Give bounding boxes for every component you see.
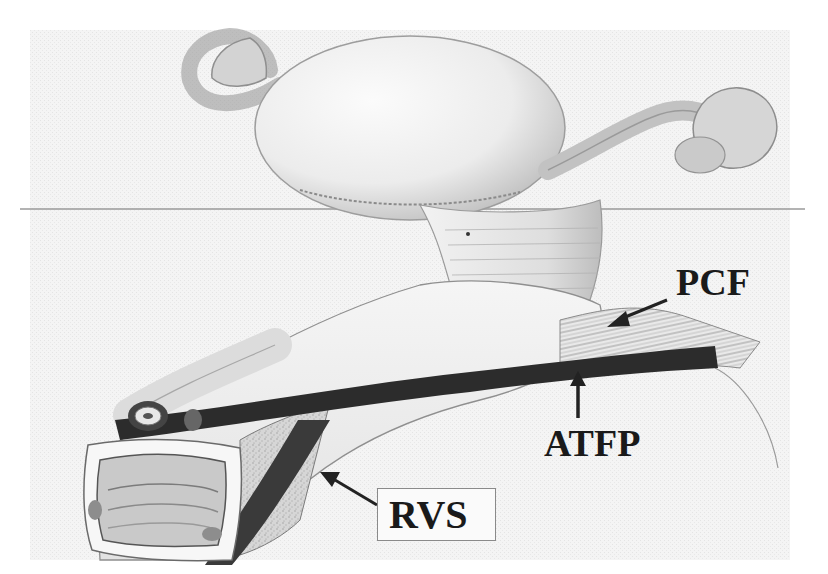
anatomical-figure: PCF ATFP RVS	[0, 0, 828, 574]
label-atfp: ATFP	[544, 424, 640, 462]
label-pcf: PCF	[676, 263, 750, 301]
label-rvs: RVS	[389, 495, 468, 535]
vaginal-opening	[84, 439, 242, 560]
cervix-mark	[466, 232, 470, 236]
